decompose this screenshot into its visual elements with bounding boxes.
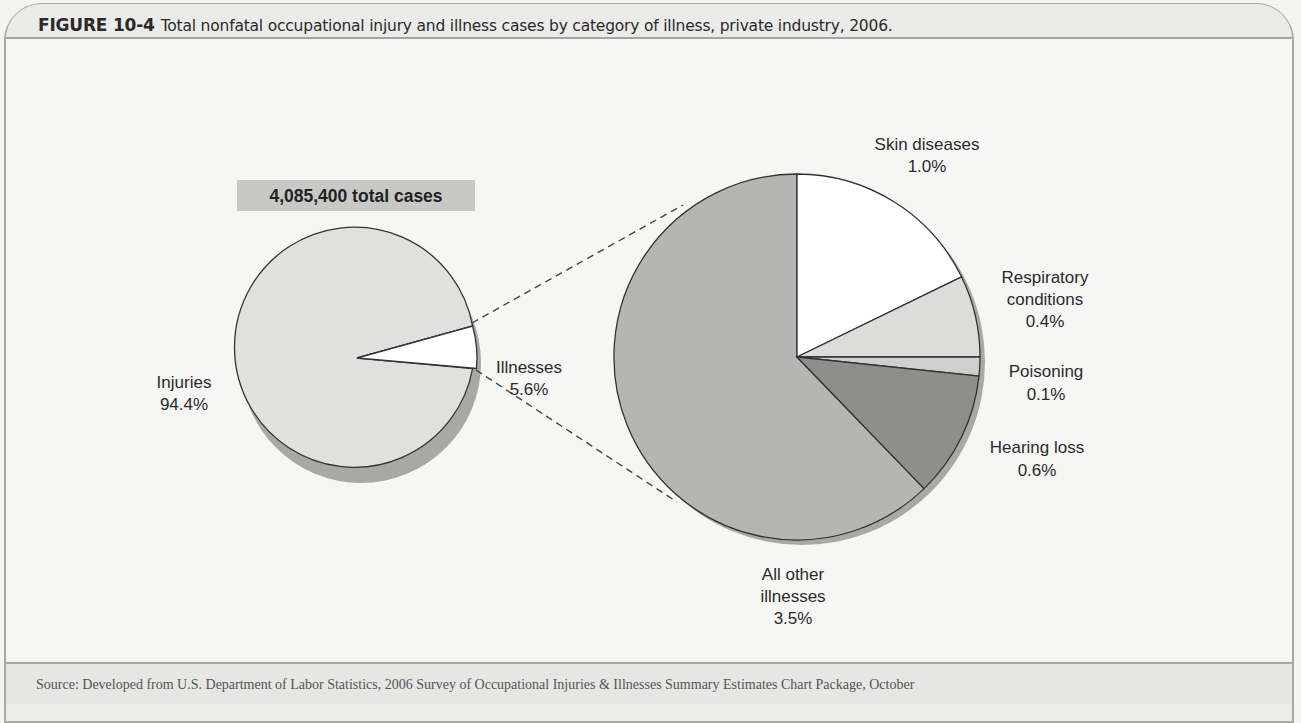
label-illnesses-value: 5.6% <box>510 380 549 399</box>
label-injuries-name: Injuries <box>157 373 212 392</box>
label-all-other-line1: All other <box>762 565 825 584</box>
label-all-other-line2: illnesses <box>760 587 825 606</box>
label-poisoning-value: 0.1% <box>1027 385 1066 404</box>
label-skin-diseases-name: Skin diseases <box>875 135 980 154</box>
label-all-other-value: 3.5% <box>774 609 813 628</box>
source-text: Source: Developed from U.S. Department o… <box>36 677 914 693</box>
label-skin-diseases-value: 1.0% <box>908 157 947 176</box>
label-respiratory-value: 0.4% <box>1026 312 1065 331</box>
label-hearing-loss-name: Hearing loss <box>990 438 1085 457</box>
total-cases-text: 4,085,400 total cases <box>237 186 475 207</box>
source-bar: Source: Developed from U.S. Department o… <box>6 662 1292 704</box>
total-cases-badge: 4,085,400 total cases <box>237 180 475 211</box>
label-respiratory-line1: Respiratory <box>1002 268 1089 287</box>
label-illnesses-name: Illnesses <box>496 358 562 377</box>
label-injuries-value: 94.4% <box>160 395 208 414</box>
label-poisoning-name: Poisoning <box>1009 362 1084 381</box>
label-respiratory-line2: conditions <box>1007 290 1084 309</box>
label-hearing-loss-value: 0.6% <box>1018 461 1057 480</box>
